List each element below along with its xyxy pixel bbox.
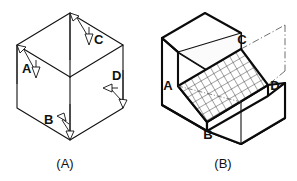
direction-label-c: C: [94, 32, 104, 47]
vertex-label-b: B: [203, 127, 212, 142]
phantom-line-top-right: [241, 25, 285, 49]
caption-panel-b: (B): [214, 156, 231, 171]
direction-label-d: D: [112, 68, 121, 83]
caption-panel-a: (A): [56, 156, 73, 171]
panel-a-drawing: A C D: [17, 13, 127, 171]
vertex-label-c: C: [237, 32, 247, 47]
vertex-label-d: D: [270, 78, 279, 93]
direction-label-b: B: [44, 112, 53, 127]
technical-drawing-figure: A C D: [0, 0, 297, 181]
vertex-label-a: A: [163, 78, 173, 93]
panel-b-drawing: A B C D (B): [162, 13, 292, 171]
figure-canvas: A C D: [0, 0, 297, 181]
direction-label-a: A: [22, 61, 32, 76]
